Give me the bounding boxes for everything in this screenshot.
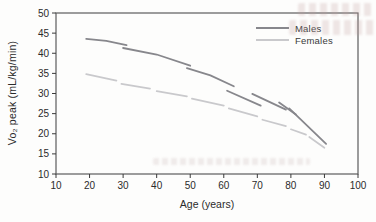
males-line-segment: [123, 48, 190, 66]
chart-legend: Males Females: [256, 22, 333, 46]
legend-item-females: Females: [256, 34, 333, 46]
x-tick-label: 20: [84, 180, 96, 191]
males-line-swatch: [256, 27, 289, 29]
x-tick-label: 60: [218, 180, 230, 191]
x-axis-title: Age (years): [180, 198, 234, 210]
females-line-segment: [192, 99, 224, 106]
females-legend-label: Females: [295, 35, 333, 46]
males-line: [86, 39, 326, 144]
females-line-segment: [86, 74, 116, 80]
x-tick-label: 10: [50, 180, 62, 191]
males-line-segment: [252, 94, 286, 110]
males-line-segment: [86, 39, 126, 45]
females-line-segment: [229, 108, 257, 116]
y-tick-label: 30: [38, 88, 50, 99]
females-line-segment: [291, 129, 306, 134]
females-line-segment: [121, 84, 150, 89]
males-line-segment: [289, 108, 326, 143]
females-line-swatch: [256, 39, 289, 41]
y-tick-label: 20: [38, 128, 50, 139]
y-tick-label: 50: [38, 8, 50, 19]
y-tick-label: 25: [38, 108, 50, 119]
x-tick-label: 100: [350, 180, 367, 191]
x-tick-label: 90: [319, 180, 331, 191]
legend-item-males: Males: [256, 22, 333, 34]
y-axis-title: Vo₂ peak (mL/kg/min): [6, 41, 18, 145]
y-tick-label: 35: [38, 68, 50, 79]
females-line-segment: [157, 91, 187, 96]
y-tick-label: 40: [38, 48, 50, 59]
males-line-segment: [187, 68, 234, 86]
x-tick-label: 30: [118, 180, 130, 191]
x-tick-label: 50: [185, 180, 197, 191]
x-axis: 102030405060708090100: [50, 174, 366, 191]
vo2-peak-age-figure: 102030405060708090100101520253035404550 …: [0, 0, 376, 222]
y-tick-label: 10: [38, 169, 50, 180]
y-tick-label: 15: [38, 148, 50, 159]
x-tick-label: 70: [252, 180, 264, 191]
females-line: [86, 74, 324, 148]
x-tick-label: 80: [285, 180, 297, 191]
males-line-segment: [227, 91, 261, 106]
y-axis: 101520253035404550: [38, 8, 56, 180]
males-legend-label: Males: [295, 23, 321, 34]
females-line-segment: [309, 137, 324, 148]
y-tick-label: 45: [38, 28, 50, 39]
females-line-segment: [262, 120, 286, 126]
x-tick-label: 40: [151, 180, 163, 191]
